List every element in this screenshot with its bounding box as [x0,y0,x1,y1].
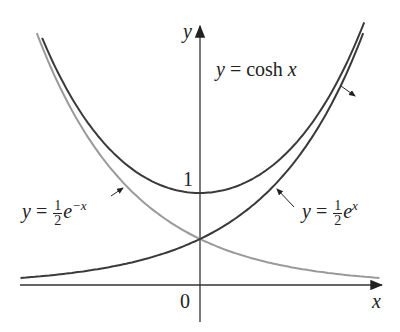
emx-eq: = [31,200,52,222]
y-axis-label: y [183,20,192,43]
cosh-lhs: y [216,58,225,80]
tick-label-one: 1 [183,168,193,191]
ex-e: e [343,200,352,222]
curve-cosh [42,22,364,193]
half-exp-x-annotation: y = 12ex [302,198,358,228]
half-fraction: 12 [53,199,62,228]
curve-half-exp-x [21,33,364,278]
arrow-emx-label [111,188,123,196]
frac-num: 1 [53,199,62,214]
half-exp-neg-x-annotation: y = 12e−x [22,198,87,228]
origin-label: 0 [180,290,190,313]
arrow-ex-label [277,189,294,207]
emx-e: e [63,200,72,222]
half-fraction: 12 [333,199,342,228]
arrow-cosh-label [341,86,355,96]
ex-lhs: y [302,200,311,222]
cosh-rhs: = cosh [225,58,288,80]
emx-exp: −x [72,198,87,213]
ex-exp: x [352,198,358,213]
emx-lhs: y [22,200,31,222]
cosh-var: x [288,58,297,80]
ex-eq: = [311,200,332,222]
frac-den: 2 [53,214,62,228]
cosh-annotation: y = cosh x [216,58,297,81]
axes [20,26,382,322]
curve-half-exp-neg-x [37,33,380,278]
frac-den: 2 [333,214,342,228]
plot-canvas [0,0,400,332]
x-axis-label: x [372,290,381,313]
frac-num: 1 [333,199,342,214]
